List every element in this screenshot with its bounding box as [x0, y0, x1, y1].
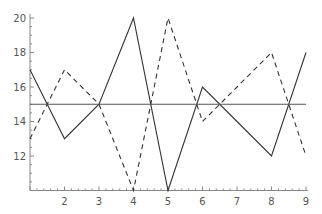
x-tick-label: 8 — [268, 196, 274, 207]
x-tick-label: 5 — [165, 196, 171, 207]
y-tick-label: 12 — [13, 151, 26, 162]
line-chart: 121416182023456789 — [0, 0, 322, 214]
x-tick-label: 4 — [130, 196, 136, 207]
x-tick-label: 3 — [96, 196, 102, 207]
y-tick-label: 14 — [13, 116, 26, 127]
series-group — [30, 18, 306, 191]
axes: 121416182023456789 — [13, 13, 309, 207]
y-tick-label: 20 — [13, 13, 26, 24]
x-tick-label: 2 — [61, 196, 67, 207]
y-tick-label: 16 — [13, 82, 26, 93]
y-tick-label: 18 — [13, 47, 26, 58]
x-tick-label: 6 — [199, 196, 205, 207]
x-tick-label: 9 — [303, 196, 309, 207]
x-tick-label: 7 — [234, 196, 240, 207]
